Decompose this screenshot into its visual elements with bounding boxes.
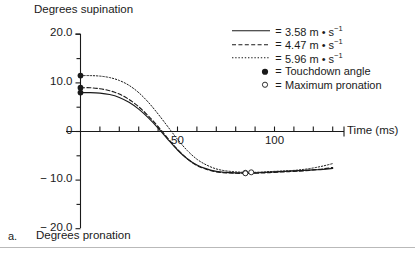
series-line [81, 88, 333, 174]
legend-label: 5.96 m • s−1 [285, 51, 343, 65]
legend-key-dotted-line [228, 51, 272, 65]
series-line [81, 93, 333, 173]
y-axis-title: Degrees supination [34, 3, 133, 15]
x-axis-title: Time (ms) [347, 124, 398, 136]
y-tick-label: 10.0 [19, 75, 73, 87]
legend-row: =3.58 m • s−1 [228, 24, 382, 38]
legend-equals: = [272, 79, 285, 91]
x-tick-label: 50 [158, 134, 198, 146]
legend-label: Touchdown angle [285, 65, 371, 77]
legend-key-filled-circle [228, 65, 272, 79]
max-pronation-marker [249, 170, 254, 175]
legend-equals: = [272, 52, 285, 64]
legend-row: =Touchdown angle [228, 65, 382, 79]
y-tick-label: 0 [19, 124, 73, 136]
legend-key-open-circle [228, 78, 272, 92]
legend-label: 3.58 m • s−1 [285, 24, 343, 38]
y-tick-label: − 10.0 [19, 172, 73, 184]
legend-equals: = [272, 38, 285, 50]
figure-divider [0, 247, 415, 248]
legend-equals: = [272, 65, 285, 77]
touchdown-marker [78, 73, 84, 79]
y-tick-label: 20.0 [19, 26, 73, 38]
x-tick-label: 100 [255, 134, 295, 146]
panel-label: a. [8, 230, 17, 242]
legend-label: Maximum pronation [285, 79, 382, 91]
touchdown-marker [78, 85, 84, 91]
max-pronation-marker [243, 171, 248, 176]
chart-legend: =3.58 m • s−1=4.47 m • s−1=5.96 m • s−1=… [228, 24, 382, 92]
legend-row: =Maximum pronation [228, 78, 382, 92]
figure-panel: Degrees supination Time (ms) Degrees pro… [0, 0, 415, 254]
y-tick-label: − 20.0 [19, 221, 73, 233]
legend-label: 4.47 m • s−1 [285, 37, 343, 51]
legend-row: =4.47 m • s−1 [228, 38, 382, 52]
legend-key-solid-line [228, 24, 272, 38]
legend-key-dashed-line [228, 38, 272, 52]
legend-equals: = [272, 25, 285, 37]
legend-row: =5.96 m • s−1 [228, 51, 382, 65]
